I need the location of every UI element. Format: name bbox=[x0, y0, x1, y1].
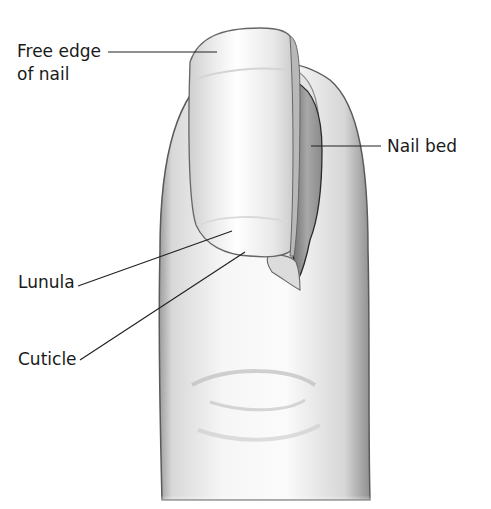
label-free-edge-line1: Free edge bbox=[17, 41, 101, 61]
label-nail-bed: Nail bed bbox=[387, 136, 457, 156]
label-free-edge-line2: of nail bbox=[17, 64, 69, 84]
label-cuticle: Cuticle bbox=[18, 349, 77, 369]
nail-plate bbox=[189, 28, 300, 257]
fingernail-diagram: Free edge of nail Nail bed Lunula Cuticl… bbox=[0, 0, 491, 509]
label-lunula: Lunula bbox=[18, 272, 75, 292]
